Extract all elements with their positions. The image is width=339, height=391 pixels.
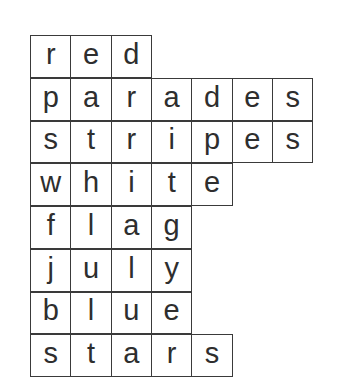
letter-cell: s: [30, 121, 72, 164]
letter-cell: r: [111, 121, 153, 164]
letter-cell: i: [111, 163, 153, 206]
letter-cell: r: [30, 35, 72, 78]
letter-cell: s: [30, 334, 72, 377]
letter-cell: a: [111, 206, 153, 249]
word-row-white: white: [30, 163, 312, 206]
letter-cell: g: [151, 206, 193, 249]
letter-cell: w: [30, 163, 72, 206]
letter-cell: s: [272, 121, 314, 164]
word-row-parades: parades: [30, 78, 312, 121]
letter-cell: p: [30, 78, 72, 121]
letter-cell: a: [111, 334, 153, 377]
letter-cell: d: [191, 78, 233, 121]
letter-cell: r: [111, 78, 153, 121]
letter-cell: e: [151, 292, 193, 335]
letter-cell: i: [151, 121, 193, 164]
letter-cell: e: [232, 78, 274, 121]
letter-cell: y: [151, 249, 193, 292]
letter-cell: e: [232, 121, 274, 164]
letter-cell: s: [191, 334, 233, 377]
letter-cell: d: [111, 35, 153, 78]
letter-cell: l: [70, 206, 112, 249]
word-row-stars: stars: [30, 334, 312, 377]
letter-cell: e: [191, 163, 233, 206]
letter-cell: l: [111, 249, 153, 292]
word-row-july: july: [30, 249, 312, 292]
letter-cell: b: [30, 292, 72, 335]
letter-cell: t: [151, 163, 193, 206]
letter-cell: s: [272, 78, 314, 121]
word-grid: redparadesstripeswhiteflagjulybluestars: [30, 35, 312, 377]
letter-cell: a: [70, 78, 112, 121]
word-row-flag: flag: [30, 206, 312, 249]
letter-cell: a: [151, 78, 193, 121]
letter-cell: u: [70, 249, 112, 292]
word-row-blue: blue: [30, 292, 312, 335]
letter-cell: p: [191, 121, 233, 164]
letter-cell: h: [70, 163, 112, 206]
letter-cell: t: [70, 121, 112, 164]
letter-cell: e: [70, 35, 112, 78]
letter-cell: l: [70, 292, 112, 335]
letter-cell: r: [151, 334, 193, 377]
letter-cell: u: [111, 292, 153, 335]
letter-cell: t: [70, 334, 112, 377]
letter-cell: f: [30, 206, 72, 249]
word-row-red: red: [30, 35, 312, 78]
letter-cell: j: [30, 249, 72, 292]
word-row-stripes: stripes: [30, 121, 312, 164]
